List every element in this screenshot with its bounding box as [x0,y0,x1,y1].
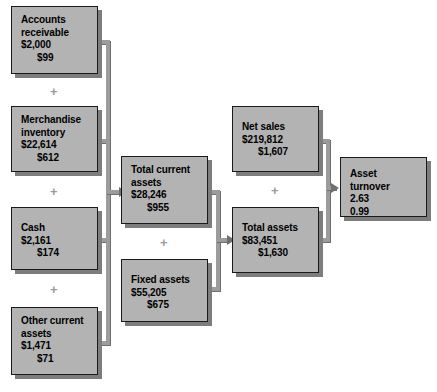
node-accounts-receivable-value-1: $2,000 [21,39,89,52]
node-other-current-assets-label: Other current assets [21,315,89,340]
operator-plus-ns-ta: + [271,184,279,197]
node-fixed-assets-value-1: $55,205 [131,287,199,300]
connector-turnover-bus [326,139,330,242]
node-net-sales-value-2: $1,607 [242,146,310,159]
node-accounts-receivable: Accounts receivable $2,000 $99 [11,6,98,74]
operator-plus-tca-fa: + [160,236,168,249]
node-asset-turnover: Asset turnover 2.63 0.99 [340,157,427,217]
node-asset-turnover-label: Asset turnover [350,168,418,193]
connector-bus-to-total-current-assets [106,190,120,194]
node-total-assets-value-2: $1,630 [242,247,310,260]
node-asset-turnover-value-2: 0.99 [350,206,418,219]
node-total-current-assets: Total current assets $28,246 $955 [121,156,208,224]
node-cash-value-2: $174 [21,247,89,260]
diagram-canvas: Accounts receivable $2,000 $99 + Merchan… [0,0,437,392]
node-net-sales: Net sales $219,812 $1,607 [232,106,319,172]
node-merchandise-inventory-label: Merchandise inventory [21,114,89,139]
node-accounts-receivable-label: Accounts receivable [21,14,89,39]
node-cash-label: Cash [21,222,89,235]
node-other-current-assets: Other current assets $1,471 $71 [11,307,98,375]
node-cash: Cash $2,161 $174 [11,207,98,270]
operator-plus-ar-mi: + [50,85,58,98]
node-cash-value-1: $2,161 [21,235,89,248]
arrowhead-to-asset-turnover [331,183,339,193]
node-total-current-assets-label: Total current assets [131,164,199,189]
node-total-assets-label: Total assets [242,222,310,235]
node-asset-turnover-value-1: 2.63 [350,193,418,206]
node-net-sales-label: Net sales [242,121,310,134]
node-merchandise-inventory: Merchandise inventory $22,614 $612 [11,106,98,172]
node-fixed-assets: Fixed assets $55,205 $675 [121,259,208,322]
node-merchandise-inventory-value-1: $22,614 [21,139,89,152]
operator-plus-cash-oca: + [50,283,58,296]
node-fixed-assets-label: Fixed assets [131,274,199,287]
node-total-assets-value-1: $83,451 [242,235,310,248]
operator-plus-mi-cash: + [50,185,58,198]
node-fixed-assets-value-2: $675 [131,299,199,312]
node-other-current-assets-value-2: $71 [21,353,89,366]
node-accounts-receivable-value-2: $99 [21,52,89,65]
node-total-assets: Total assets $83,451 $1,630 [232,207,319,273]
node-net-sales-value-1: $219,812 [242,134,310,147]
node-total-current-assets-value-2: $955 [131,202,199,215]
node-other-current-assets-value-1: $1,471 [21,340,89,353]
node-merchandise-inventory-value-2: $612 [21,152,89,165]
node-total-current-assets-value-1: $28,246 [131,189,199,202]
